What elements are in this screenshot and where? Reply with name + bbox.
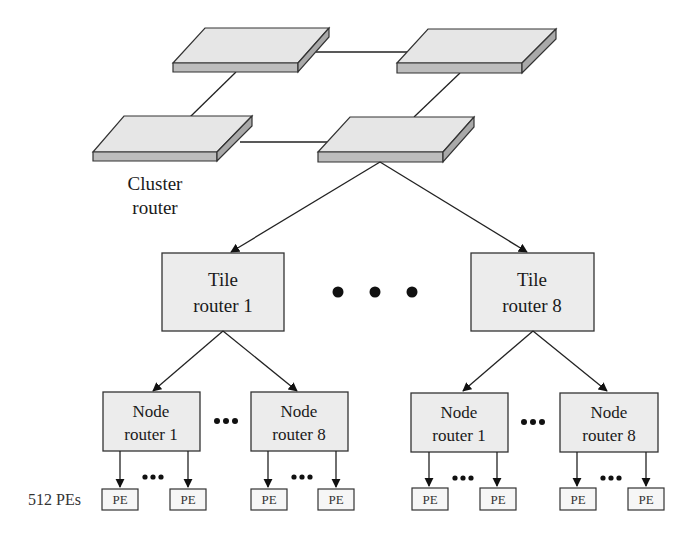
node-to-pe-links (120, 451, 646, 487)
cluster-router-top-right (397, 29, 556, 73)
svg-text:PE: PE (328, 492, 343, 507)
pe-count-label: 512 PEs (28, 491, 81, 508)
node-router-label-line1: Node (281, 402, 318, 421)
tile-router-8: Tile router 8 (471, 253, 594, 331)
tile-router-1-label-line1: Tile (208, 269, 238, 290)
svg-text:PE: PE (112, 492, 127, 507)
node-router-label-line2: router 1 (124, 425, 177, 444)
pe-box: PE (102, 489, 138, 510)
svg-text:PE: PE (261, 492, 276, 507)
tile-router-1: Tile router 1 (162, 253, 284, 331)
cluster-router-top-left (173, 28, 329, 72)
pe-box: PE (480, 488, 516, 510)
node-router-8-left: Node router 8 (251, 392, 348, 451)
tile-router-1-label-line2: router 1 (193, 295, 253, 316)
svg-text:PE: PE (422, 492, 437, 507)
pe-boxes: PE PE PE PE PE PE PE PE (102, 488, 664, 510)
pe-box: PE (251, 489, 287, 510)
pe-box: PE (628, 488, 664, 510)
pe-ellipsis-icon (142, 474, 621, 480)
cluster-router-bottom-right (318, 117, 474, 162)
tile-ellipsis-icon (333, 287, 418, 298)
pe-box: PE (560, 488, 596, 510)
svg-text:PE: PE (638, 492, 653, 507)
node-router-8-right: Node router 8 (560, 393, 658, 452)
svg-text:PE: PE (180, 492, 195, 507)
tile-router-8-label-line2: router 8 (502, 295, 562, 316)
pe-box: PE (318, 489, 354, 510)
router-hierarchy-diagram: Cluster router Tile router 1 Tile router… (0, 0, 690, 545)
tile-to-node-links (153, 331, 607, 391)
node-router-label-line2: router 8 (272, 425, 325, 444)
node-router-label-line1: Node (133, 402, 170, 421)
cluster-router-label-line2: router (132, 197, 178, 218)
tile-router-8-label-line1: Tile (517, 269, 547, 290)
node-router-label-line1: Node (591, 403, 628, 422)
cluster-to-tile-links (231, 162, 527, 252)
cluster-router-bottom-left (93, 116, 252, 161)
node-router-label-line2: router 1 (432, 426, 485, 445)
node-router-1-right: Node router 1 (411, 393, 508, 452)
svg-text:PE: PE (570, 492, 585, 507)
pe-box: PE (412, 488, 448, 510)
node-router-1-left: Node router 1 (103, 392, 200, 451)
svg-text:PE: PE (490, 492, 505, 507)
node-router-label-line1: Node (441, 403, 478, 422)
cluster-router-label-line1: Cluster (128, 173, 184, 194)
pe-box: PE (170, 489, 206, 510)
node-router-label-line2: router 8 (582, 426, 635, 445)
